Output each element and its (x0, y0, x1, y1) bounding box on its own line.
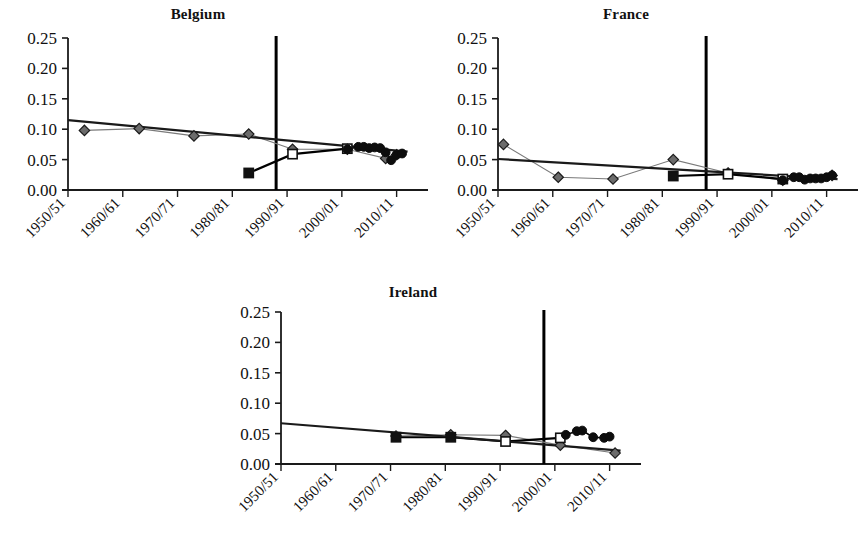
x-axis-tick-label: 1950/51 (235, 469, 281, 515)
panel-ireland: Ireland 0.250.200.150.100.050.001950/511… (213, 284, 649, 546)
x-axis-tick-label-group: 2000/01 (726, 195, 772, 241)
x-axis-tick-label-group: 1990/91 (454, 469, 500, 515)
x-axis-tick-label-group: 2010/11 (564, 469, 610, 515)
x-axis-tick-label-group: 1960/61 (290, 469, 336, 515)
x-axis-tick-label-group: 2010/11 (781, 195, 827, 241)
x-axis-tick-label: 1950/51 (452, 195, 498, 241)
plot-belgium: 0.250.200.150.100.050.001950/511960/6119… (0, 4, 436, 272)
x-axis-tick-label-group: 1990/91 (241, 195, 287, 241)
x-axis-tick-label-group: 2000/01 (509, 469, 555, 515)
panel-title-france: France (408, 6, 844, 23)
x-axis-tick-label: 1960/61 (77, 195, 123, 241)
plot-ireland: 0.250.200.150.100.050.001950/511960/6119… (213, 284, 649, 544)
y-axis-tick-label: 0.05 (457, 151, 487, 170)
x-axis-tick-label: 2010/11 (351, 195, 397, 241)
y-axis-tick-label: 0.00 (457, 181, 487, 200)
data-point-diamond (608, 174, 618, 184)
panel-belgium: Belgium 0.250.200.150.100.050.001950/511… (0, 4, 436, 274)
data-point-square (723, 170, 732, 179)
x-axis-tick-label: 1960/61 (290, 469, 336, 515)
data-point-circle (343, 145, 352, 154)
x-axis-tick-label: 1990/91 (241, 195, 287, 241)
data-point-circle (398, 149, 407, 158)
x-axis-tick-label: 1990/91 (454, 469, 500, 515)
x-axis-tick-label-group: 2010/11 (351, 195, 397, 241)
y-axis-tick-label: 0.15 (27, 90, 57, 109)
y-axis-tick-label: 0.20 (457, 59, 487, 78)
data-point-diamond (134, 123, 144, 133)
figure-root: Belgium 0.250.200.150.100.050.001950/511… (0, 0, 866, 546)
x-axis-tick-label-group: 1980/81 (616, 195, 662, 241)
x-axis-tick-label: 2000/01 (509, 469, 555, 515)
data-point-circle (605, 432, 614, 441)
panel-title-ireland: Ireland (195, 284, 631, 301)
data-point-square (244, 168, 253, 177)
data-point-diamond (79, 125, 89, 135)
x-axis-tick-label-group: 1950/51 (452, 195, 498, 241)
x-axis-tick-label: 1980/81 (616, 195, 662, 241)
data-point-square (391, 433, 400, 442)
data-point-circle (828, 171, 837, 180)
data-point-circle (778, 176, 787, 185)
data-point-diamond (668, 154, 678, 164)
x-axis-tick-label-group: 1970/71 (345, 469, 391, 515)
y-axis-tick-label: 0.25 (457, 29, 487, 48)
data-point-circle (381, 148, 390, 157)
x-axis-tick-label: 1970/71 (345, 469, 391, 515)
y-axis-tick-label: 0.15 (457, 90, 487, 109)
data-point-diamond (553, 172, 563, 182)
data-point-square (501, 437, 510, 446)
y-axis-tick-label: 0.25 (240, 303, 270, 322)
x-axis-tick-label-group: 1960/61 (77, 195, 123, 241)
panel-france: France 0.250.200.150.100.050.001950/5119… (430, 4, 866, 274)
y-axis-tick-label: 0.20 (240, 333, 270, 352)
data-point-square (446, 433, 455, 442)
y-axis-tick-label: 0.10 (27, 120, 57, 139)
y-axis-tick-label: 0.00 (27, 181, 57, 200)
x-axis-tick-label-group: 1980/81 (186, 195, 232, 241)
data-point-square (288, 150, 297, 159)
x-axis-tick-label: 1980/81 (186, 195, 232, 241)
panel-title-belgium: Belgium (0, 6, 416, 23)
data-point-square (669, 171, 678, 180)
x-axis-tick-label: 2010/11 (781, 195, 827, 241)
y-axis-tick-label: 0.00 (240, 455, 270, 474)
x-axis-tick-label-group: 1960/61 (507, 195, 553, 241)
data-point-circle (589, 433, 598, 442)
x-axis-tick-label-group: 2000/01 (296, 195, 342, 241)
x-axis-tick-label-group: 1980/81 (399, 469, 445, 515)
y-axis-tick-label: 0.20 (27, 59, 57, 78)
x-axis-tick-label: 2000/01 (296, 195, 342, 241)
series-connector-line (249, 149, 348, 173)
x-axis-tick-label: 2010/11 (564, 469, 610, 515)
x-axis-tick-label: 1950/51 (22, 195, 68, 241)
y-axis-tick-label: 0.05 (240, 425, 270, 444)
y-axis-tick-label: 0.05 (27, 151, 57, 170)
y-axis-tick-label: 0.25 (27, 29, 57, 48)
data-point-circle (578, 426, 587, 435)
x-axis-tick-label: 2000/01 (726, 195, 772, 241)
x-axis-tick-label: 1970/71 (132, 195, 178, 241)
data-point-circle (561, 430, 570, 439)
x-axis-tick-label: 1970/71 (562, 195, 608, 241)
x-axis-tick-label-group: 1950/51 (235, 469, 281, 515)
x-axis-tick-label-group: 1970/71 (132, 195, 178, 241)
y-axis-tick-label: 0.10 (240, 394, 270, 413)
x-axis-tick-label: 1960/61 (507, 195, 553, 241)
y-axis-tick-label: 0.10 (457, 120, 487, 139)
y-axis-tick-label: 0.15 (240, 364, 270, 383)
x-axis-tick-label-group: 1970/71 (562, 195, 608, 241)
x-axis-tick-label-group: 1950/51 (22, 195, 68, 241)
x-axis-tick-label-group: 1990/91 (671, 195, 717, 241)
data-point-diamond (498, 139, 508, 149)
x-axis-tick-label: 1980/81 (399, 469, 445, 515)
plot-france: 0.250.200.150.100.050.001950/511960/6119… (430, 4, 866, 272)
x-axis-tick-label: 1990/91 (671, 195, 717, 241)
